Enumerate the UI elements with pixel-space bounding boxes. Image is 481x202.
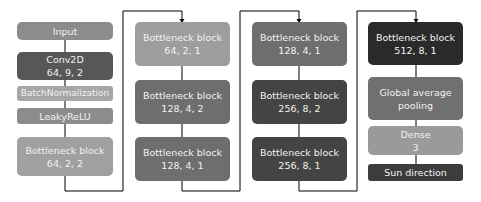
block-label: Bottleneck block bbox=[260, 146, 339, 159]
sun-direction-output: Sun direction bbox=[368, 164, 463, 181]
block-label: Global average bbox=[379, 86, 451, 99]
block-label: Bottleneck block bbox=[143, 89, 222, 102]
block-label: Bottleneck block bbox=[143, 146, 222, 159]
global-average-pooling-block: Global average pooling bbox=[368, 77, 463, 120]
block-label: Bottleneck block bbox=[143, 31, 222, 44]
leakyrelu-block: LeakyReLU bbox=[17, 108, 113, 124]
block-params: 3 bbox=[412, 141, 418, 154]
block-params: 64, 2, 1 bbox=[164, 44, 200, 57]
bottleneck-block-64-2-2: Bottleneck block 64, 2, 2 bbox=[17, 137, 113, 176]
block-params: 512, 8, 1 bbox=[394, 44, 436, 57]
conv2d-block: Conv2D 64, 9, 2 bbox=[17, 52, 113, 80]
dense-block: Dense 3 bbox=[368, 126, 463, 155]
block-params: 128, 4, 1 bbox=[278, 44, 320, 57]
bottleneck-block-128-4-2: Bottleneck block 128, 4, 2 bbox=[135, 80, 230, 124]
block-label: Sun direction bbox=[384, 166, 447, 179]
bottleneck-block-128-4-1: Bottleneck block 128, 4, 1 bbox=[135, 137, 230, 181]
block-params: 64, 2, 2 bbox=[47, 157, 83, 170]
block-label: Bottleneck block bbox=[260, 89, 339, 102]
bottleneck-block-128-4-1-b: Bottleneck block 128, 4, 1 bbox=[252, 22, 347, 66]
block-params: 256, 8, 2 bbox=[278, 102, 320, 115]
bottleneck-block-64-2-1: Bottleneck block 64, 2, 1 bbox=[135, 22, 230, 66]
block-label: Bottleneck block bbox=[260, 31, 339, 44]
block-label: BatchNormalization bbox=[21, 87, 109, 100]
bottleneck-block-256-8-2: Bottleneck block 256, 8, 2 bbox=[252, 80, 347, 124]
block-params: 256, 8, 1 bbox=[278, 159, 320, 172]
input-block: Input bbox=[17, 22, 113, 40]
block-label-cont: pooling bbox=[398, 99, 433, 112]
block-label: Dense bbox=[401, 128, 431, 141]
block-label: Conv2D bbox=[46, 53, 83, 66]
batchnorm-block: BatchNormalization bbox=[17, 86, 113, 101]
bottleneck-block-256-8-1: Bottleneck block 256, 8, 1 bbox=[252, 137, 347, 181]
block-label: Bottleneck block bbox=[25, 144, 104, 157]
block-params: 64, 9, 2 bbox=[47, 66, 83, 79]
block-label: LeakyReLU bbox=[39, 110, 90, 123]
block-label: Bottleneck block bbox=[376, 31, 455, 44]
network-architecture-diagram: Input Conv2D 64, 9, 2 BatchNormalization… bbox=[0, 0, 481, 202]
block-label: Input bbox=[53, 25, 78, 38]
bottleneck-block-512-8-1: Bottleneck block 512, 8, 1 bbox=[368, 22, 463, 65]
block-params: 128, 4, 2 bbox=[161, 102, 203, 115]
block-params: 128, 4, 1 bbox=[161, 159, 203, 172]
